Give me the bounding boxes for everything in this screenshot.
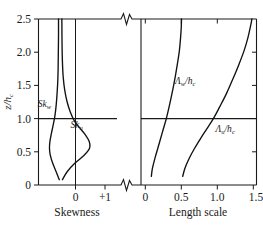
y-tick-label-2-0: 2.0 bbox=[17, 46, 32, 58]
curve-label-lambda-u-den-sub: c bbox=[232, 128, 235, 135]
curve-label-skewness-u-sub: u bbox=[79, 124, 83, 131]
curve-label-skewness-u: Sku bbox=[70, 120, 83, 131]
curves-layer bbox=[49, 19, 251, 180]
right-x-tick-labels: 0 0.5 1.0 1.5 bbox=[142, 191, 263, 203]
left-x-tick-label-0: 0 bbox=[73, 191, 79, 203]
y-tick-label-2-5: 2.5 bbox=[17, 13, 32, 25]
right-x-axis-ticks bbox=[145, 19, 253, 190]
y-tick-label-1-5: 1.5 bbox=[17, 79, 32, 91]
left-x-tick-label-plus1: +1 bbox=[99, 191, 111, 203]
right-x-tick-label-0-5: 0.5 bbox=[174, 191, 189, 203]
right-x-tick-label-1-5: 1.5 bbox=[249, 191, 263, 203]
right-x-tick-label-0: 0 bbox=[142, 191, 148, 203]
curve-skewness-w bbox=[49, 19, 59, 180]
y-tick-label-0: 0 bbox=[25, 179, 31, 191]
curve-label-skewness-w: Skw bbox=[38, 99, 52, 110]
right-x-tick-label-1-0: 1.0 bbox=[210, 191, 225, 203]
curve-label-lambda-w-den: /h bbox=[184, 76, 193, 86]
y-axis-title-sub: c bbox=[7, 94, 14, 97]
right-x-axis-title: Length scale bbox=[169, 206, 227, 219]
curve-label-lambda-u-den: /h bbox=[223, 124, 232, 134]
curve-lambda-u bbox=[183, 19, 252, 176]
curve-label-lambda-w-den-sub: c bbox=[192, 80, 195, 87]
curve-labels-layer: Skw Sku Λw/hc Λu/hc bbox=[38, 76, 235, 135]
curve-label-lambda-u: Λu/hc bbox=[214, 124, 234, 135]
y-axis-title: z/hc bbox=[1, 94, 14, 111]
y-tick-labels: 0 0.5 1.0 1.5 2.0 2.5 bbox=[17, 13, 32, 191]
skewness-length-scale-figure: 0 0.5 1.0 1.5 2.0 2.5 z/hc 0 +1 Skewness bbox=[0, 0, 263, 227]
y-axis-title-main: z/h bbox=[1, 97, 13, 111]
right-panel-y-ticks bbox=[252, 52, 257, 152]
y-tick-label-0-5: 0.5 bbox=[17, 146, 32, 158]
axis-break-bottom-icon bbox=[117, 180, 141, 191]
curve-lambda-w bbox=[151, 19, 181, 176]
y-tick-label-1-0: 1.0 bbox=[17, 113, 32, 125]
right-panel-frame bbox=[141, 19, 257, 185]
left-x-tick-labels: 0 +1 bbox=[73, 191, 112, 203]
svg-text:z/hc: z/hc bbox=[1, 94, 14, 111]
axis-break-top-icon bbox=[117, 14, 141, 25]
left-x-axis-ticks bbox=[76, 185, 106, 190]
curve-label-skewness-w-sub: w bbox=[47, 103, 52, 110]
left-x-axis-title: Skewness bbox=[54, 206, 100, 218]
curve-label-lambda-w: Λw/hc bbox=[174, 76, 195, 87]
figure-container: 0 0.5 1.0 1.5 2.0 2.5 z/hc 0 +1 Skewness bbox=[0, 0, 263, 227]
